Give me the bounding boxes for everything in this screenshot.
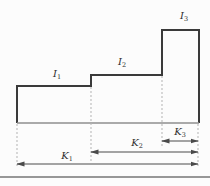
diagram-drawing [0,0,210,186]
label-I3: I3 [180,10,188,21]
label-I1: I1 [53,68,61,79]
step-profile-diagram: I1 I2 I3 K1 K2 K3 [0,0,210,186]
label-K1-subscript: 1 [69,155,73,163]
label-I2-subscript: 2 [122,61,126,69]
label-K2: K2 [131,137,143,148]
label-I1-subscript: 1 [57,73,61,81]
label-K3: K3 [174,126,186,137]
label-K3-subscript: 3 [182,131,186,139]
label-K2-subscript: 2 [139,142,143,150]
label-K1: K1 [61,150,73,161]
step-profile-outline [17,30,199,123]
label-I2: I2 [118,56,126,67]
label-I3-subscript: 3 [184,15,188,23]
